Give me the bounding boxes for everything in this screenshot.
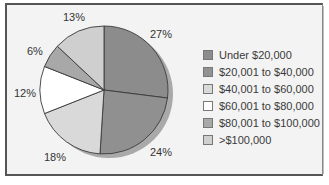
slice-percent-label: 27% [150, 28, 172, 40]
legend-swatch [203, 50, 213, 60]
slice-percent-label: 18% [44, 151, 66, 163]
legend: Under $20,000 $20,001 to $40,000 $40,001… [203, 46, 320, 148]
legend-label: $80,001 to $100,000 [219, 117, 320, 129]
legend-swatch [203, 118, 213, 128]
slice-percent-label: 24% [150, 146, 172, 158]
slice-percent-label: 13% [63, 11, 85, 23]
legend-label: Under $20,000 [219, 49, 292, 61]
slice-percent-label: 6% [27, 45, 43, 57]
legend-swatch [203, 84, 213, 94]
legend-swatch [203, 101, 213, 111]
legend-label: $20,001 to $40,000 [219, 66, 314, 78]
legend-label: $40,001 to $60,000 [219, 83, 314, 95]
legend-item-60001-to-80000: $60,001 to $80,000 [203, 97, 320, 114]
pie-slice [100, 90, 168, 154]
legend-item-under-20000: Under $20,000 [203, 46, 320, 63]
legend-item-20001-to-40000: $20,001 to $40,000 [203, 63, 320, 80]
legend-label: $60,001 to $80,000 [219, 100, 314, 112]
legend-swatch [203, 135, 213, 145]
legend-item-80001-to-100000: $80,001 to $100,000 [203, 114, 320, 131]
legend-item-over-100000: >$100,000 [203, 131, 320, 148]
slice-percent-label: 12% [14, 87, 36, 99]
legend-swatch [203, 67, 213, 77]
legend-label: >$100,000 [219, 134, 271, 146]
legend-item-40001-to-60000: $40,001 to $60,000 [203, 80, 320, 97]
